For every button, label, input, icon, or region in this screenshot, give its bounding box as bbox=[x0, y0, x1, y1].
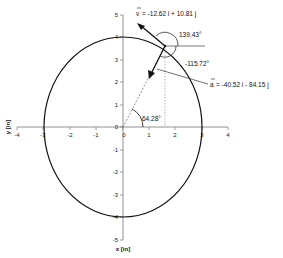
svg-text:1: 1 bbox=[147, 132, 151, 138]
svg-text:2: 2 bbox=[115, 79, 119, 85]
svg-text:2: 2 bbox=[173, 132, 177, 138]
acceleration-arrowhead-icon bbox=[148, 70, 155, 79]
y-tick-labels: 5 4 3 2 1 0 -1 -2 -3 -4 -5 bbox=[113, 12, 119, 243]
ellipse-motion-chart: -4 -3 -2 -1 0 1 2 3 4 5 4 3 2 1 0 -1 -2 … bbox=[0, 0, 283, 258]
svg-text:= -12.62 i + 10.81 j: = -12.62 i + 10.81 j bbox=[142, 10, 196, 18]
x-ticks bbox=[17, 127, 228, 130]
svg-text:1: 1 bbox=[115, 102, 119, 108]
angle-label-velocity: 139.43° bbox=[179, 31, 202, 38]
svg-text:-4: -4 bbox=[14, 132, 20, 138]
svg-text:-1: -1 bbox=[113, 147, 119, 153]
svg-text:-3: -3 bbox=[113, 192, 119, 198]
svg-text:v: v bbox=[136, 10, 140, 17]
svg-text:= -40.52 i - 84.15 j: = -40.52 i - 84.15 j bbox=[216, 81, 269, 89]
svg-text:-2: -2 bbox=[67, 132, 73, 138]
svg-text:3: 3 bbox=[115, 57, 119, 63]
y-ticks bbox=[120, 15, 123, 240]
acceleration-vector bbox=[151, 46, 165, 74]
svg-text:a: a bbox=[210, 81, 214, 88]
svg-text:4: 4 bbox=[226, 132, 230, 138]
velocity-vector bbox=[140, 25, 165, 46]
y-axis-label: y [in] bbox=[5, 120, 11, 134]
svg-text:0: 0 bbox=[122, 132, 126, 138]
x-tick-labels: -4 -3 -2 -1 0 1 2 3 4 bbox=[14, 132, 230, 138]
acceleration-leader-line bbox=[157, 69, 208, 84]
svg-text:-1: -1 bbox=[93, 132, 99, 138]
velocity-equation: v = -12.62 i + 10.81 j bbox=[136, 8, 196, 18]
position-point bbox=[164, 45, 166, 47]
angle-label-position: 64.28° bbox=[142, 115, 161, 122]
angle-arc-velocity bbox=[156, 32, 178, 46]
svg-text:5: 5 bbox=[115, 12, 119, 18]
svg-text:-3: -3 bbox=[40, 132, 46, 138]
svg-text:-2: -2 bbox=[113, 169, 119, 175]
acceleration-equation: a = -40.52 i - 84.15 j bbox=[210, 79, 269, 89]
x-axis-label: x [in] bbox=[116, 246, 130, 252]
svg-text:-5: -5 bbox=[113, 237, 119, 243]
angle-label-acceleration: -115.72° bbox=[185, 60, 210, 67]
